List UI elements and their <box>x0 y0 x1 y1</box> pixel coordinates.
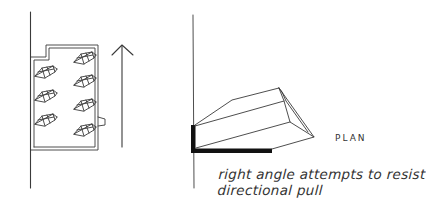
wall-projection <box>98 117 105 126</box>
caption: right angle attempts to resist direction… <box>217 166 426 198</box>
fixture-icon <box>74 124 96 136</box>
room-outline-outer <box>31 45 99 150</box>
right-angle-bracket <box>191 125 272 153</box>
up-arrow-icon <box>112 45 133 147</box>
fixture-icon <box>35 90 57 102</box>
fixture-icon <box>74 75 96 87</box>
fixture-icon <box>74 52 96 64</box>
left-plan <box>31 12 134 188</box>
caption-line-2: directional pull <box>217 182 425 198</box>
fixture-icon <box>74 99 96 111</box>
fixture-icon <box>35 114 57 126</box>
plan-label: PLAN <box>335 133 367 143</box>
fixture-body <box>195 88 314 149</box>
right-wall-line <box>193 15 194 188</box>
fixture-icon <box>35 66 57 78</box>
caption-line-1: right angle attempts to resist <box>218 166 426 182</box>
right-plan <box>191 15 314 188</box>
